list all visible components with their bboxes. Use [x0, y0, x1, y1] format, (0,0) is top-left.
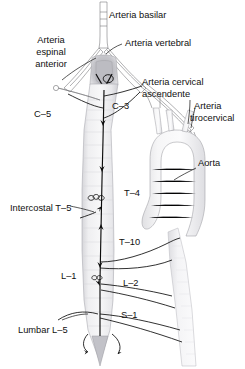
label-l2: L–2 — [123, 278, 139, 288]
label-t4: T–4 — [124, 188, 140, 198]
label-c5: C–5 — [34, 109, 51, 119]
label-s1: S–1 — [121, 310, 138, 320]
label-arteria-vertebral: Arteria vertebral — [125, 38, 191, 48]
label-lumbar-l5: Lumbar L–5 — [18, 325, 68, 335]
label-l1: L–1 — [61, 271, 77, 281]
label-arteria-tirocervical-line2: tirocervical — [190, 113, 234, 123]
label-arteria-espinal-anterior-line3: anterior — [35, 59, 67, 69]
label-arteria-espinal-anterior-line1: Arteria — [37, 35, 65, 45]
label-arteria-espinal-anterior-line2: espinal — [36, 47, 65, 57]
spinal-cord-arterial-supply-figure: Arteria basilar Arteria espinal anterior… — [0, 0, 245, 369]
label-intercostal-t5: Intercostal T–5 — [10, 203, 71, 213]
label-arteria-cervical-ascendente-line2: ascendente — [142, 89, 190, 99]
label-arteria-basilar: Arteria basilar — [109, 10, 166, 20]
label-c3: C–3 — [112, 101, 129, 111]
label-t10: T–10 — [119, 237, 140, 247]
anatomy-illustration: Arteria basilar Arteria espinal anterior… — [0, 0, 245, 369]
label-arteria-cervical-ascendente-line1: Arteria cervical — [142, 77, 203, 87]
label-aorta: Aorta — [198, 158, 221, 168]
label-arteria-tirocervical-line1: Arteria — [194, 101, 222, 111]
